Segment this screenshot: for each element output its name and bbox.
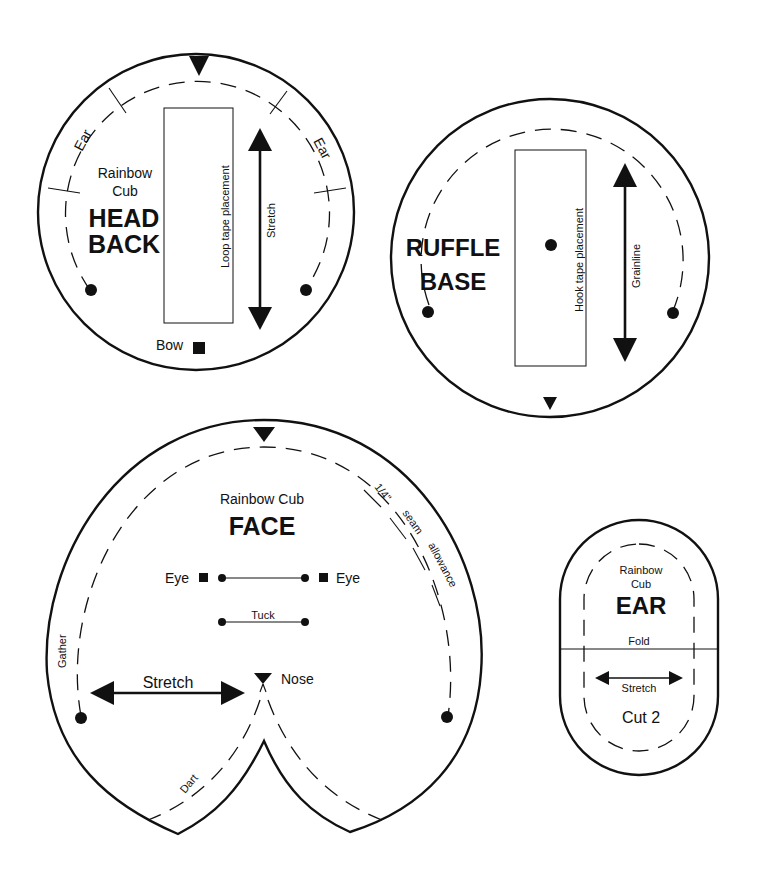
bow-marker bbox=[193, 342, 205, 354]
dot-marker-left bbox=[85, 284, 97, 296]
eye-dot-left bbox=[218, 574, 226, 582]
notch-marker bbox=[189, 56, 209, 76]
ear-marker-left-top bbox=[109, 88, 126, 113]
ear-piece: Rainbow Cub EAR Fold Stretch Cut 2 bbox=[560, 520, 718, 775]
face-piece: Rainbow Cub FACE Eye Eye Tuck Stretch No… bbox=[47, 420, 482, 834]
brand-line-1: Rainbow bbox=[620, 564, 663, 576]
dot-marker-left bbox=[422, 306, 434, 318]
dot-marker-right bbox=[441, 711, 453, 723]
arrowhead-down-icon bbox=[613, 338, 637, 362]
arrowhead-down-icon bbox=[248, 307, 272, 330]
notch-marker bbox=[253, 427, 275, 442]
dart-line-left bbox=[148, 700, 260, 820]
brand-line-1: Rainbow bbox=[98, 165, 153, 181]
tuck-dot-left bbox=[218, 618, 226, 626]
grainline-label: Grainline bbox=[630, 244, 642, 288]
eye-label-right: Eye bbox=[336, 570, 360, 586]
piece-title-line-2: BASE bbox=[420, 268, 487, 295]
fold-label: Fold bbox=[628, 635, 649, 647]
ruffle-base-piece: RUFFLE BASE Hook tape placement Grainlin… bbox=[391, 99, 709, 417]
stretch-label: Stretch bbox=[143, 674, 194, 691]
ear-marker-right-top bbox=[270, 91, 287, 114]
dot-marker-right bbox=[667, 307, 679, 319]
piece-title: EAR bbox=[616, 592, 667, 619]
dot-marker-left bbox=[75, 712, 87, 724]
ear-label-left: Ear bbox=[71, 126, 96, 153]
piece-title: FACE bbox=[229, 512, 296, 540]
ear-label-right: Ear bbox=[310, 135, 335, 162]
stretch-label: Stretch bbox=[265, 203, 277, 238]
arrowhead-left-icon bbox=[90, 681, 114, 705]
arrowhead-right-icon bbox=[669, 671, 683, 685]
tuck-dot-right bbox=[301, 618, 309, 626]
eye-marker-right bbox=[319, 573, 328, 582]
face-outline bbox=[47, 420, 482, 834]
arrowhead-right-icon bbox=[221, 681, 245, 705]
loop-tape-label: Loop tape placement bbox=[219, 165, 231, 268]
arrowhead-up-icon bbox=[613, 163, 637, 187]
hook-tape-label: Hook tape placement bbox=[573, 208, 585, 312]
gather-label: Gather bbox=[56, 634, 68, 668]
arrowhead-left-icon bbox=[595, 671, 609, 685]
eye-label-left: Eye bbox=[165, 570, 189, 586]
nose-marker bbox=[254, 673, 272, 684]
ear-marker-right-bottom bbox=[314, 188, 346, 193]
dart-label: Dart bbox=[177, 772, 200, 796]
stretch-label: Stretch bbox=[622, 682, 657, 694]
notch-marker bbox=[543, 397, 557, 410]
tuck-label: Tuck bbox=[251, 609, 275, 621]
head-back-seam-line bbox=[66, 81, 330, 290]
arrowhead-up-icon bbox=[248, 128, 272, 151]
bow-label: Bow bbox=[156, 337, 184, 353]
dart-line-right bbox=[268, 700, 382, 820]
nose-label: Nose bbox=[281, 671, 314, 687]
seam-note-line-1: 1/4" bbox=[372, 481, 393, 504]
seam-note-line-3: allowance bbox=[426, 540, 460, 589]
head-back-piece: Ear Ear Rainbow Cub HEAD BACK Loop tape … bbox=[38, 54, 354, 370]
eye-dot-right bbox=[301, 574, 309, 582]
center-dot-marker bbox=[545, 239, 557, 251]
dot-marker-right bbox=[300, 284, 312, 296]
brand-label: Rainbow Cub bbox=[220, 491, 304, 507]
brand-line-2: Cub bbox=[112, 183, 138, 199]
pattern-sheet: Ear Ear Rainbow Cub HEAD BACK Loop tape … bbox=[0, 0, 761, 891]
ear-marker-left-bottom bbox=[48, 188, 80, 193]
seam-note-line-2: seam bbox=[400, 507, 425, 536]
piece-title-line-1: HEAD bbox=[89, 204, 160, 232]
cut-count-label: Cut 2 bbox=[622, 709, 660, 726]
eye-marker-left bbox=[199, 573, 208, 582]
piece-title-line-1: RUFFLE bbox=[406, 234, 501, 261]
brand-line-2: Cub bbox=[631, 578, 651, 590]
piece-title-line-2: BACK bbox=[88, 230, 160, 258]
